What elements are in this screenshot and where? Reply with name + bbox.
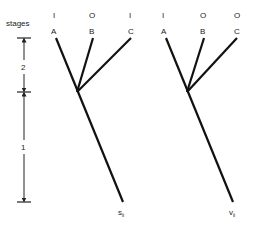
root-label-v: vii bbox=[229, 208, 235, 218]
leaf-b-state: O bbox=[200, 11, 206, 20]
tree-left: I O I A B C sii bbox=[51, 11, 134, 218]
leaf-b-name: B bbox=[200, 27, 205, 36]
leaf-b-state: O bbox=[89, 11, 95, 20]
leaf-a-state: I bbox=[53, 11, 55, 20]
stage-1-label: 1 bbox=[21, 143, 26, 152]
tree-right: I O O A B C vii bbox=[161, 11, 240, 218]
stage-2-label: 2 bbox=[21, 63, 26, 72]
stages-title: stages bbox=[6, 19, 30, 28]
leaf-c-state: O bbox=[234, 11, 240, 20]
leaf-b-name: B bbox=[89, 27, 94, 36]
leaf-c-name: C bbox=[234, 27, 240, 36]
branch-a-root bbox=[166, 38, 233, 202]
stage-axis: stages 2 1 bbox=[6, 19, 31, 202]
root-label-s: sii bbox=[118, 208, 124, 218]
leaf-a-state: I bbox=[162, 11, 164, 20]
leaf-a-name: A bbox=[161, 27, 167, 36]
branch-a-root bbox=[56, 38, 123, 202]
leaf-a-name: A bbox=[51, 27, 57, 36]
leaf-c-name: C bbox=[128, 27, 134, 36]
leaf-c-state: I bbox=[129, 11, 131, 20]
phylogeny-diagram: stages 2 1 I O I A B C sii I O O A B C v… bbox=[0, 0, 253, 227]
